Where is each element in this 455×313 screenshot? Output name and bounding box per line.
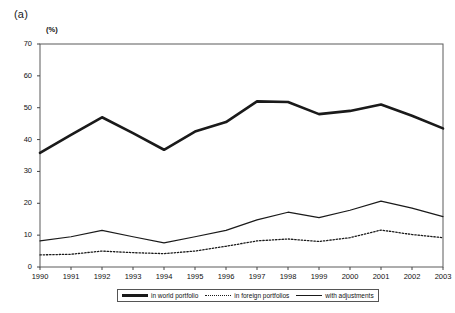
legend-swatch-thin-solid xyxy=(296,292,322,299)
x-axis-tick-label: 1992 xyxy=(85,273,119,281)
x-axis-tick-label: 2000 xyxy=(333,273,367,281)
plot-area: 0102030405060701990199119921993199419951… xyxy=(0,0,455,313)
legend-swatch-thick-solid xyxy=(122,292,148,299)
x-axis-tick-label: 2001 xyxy=(364,273,398,281)
y-axis-tick-label: 50 xyxy=(10,104,32,112)
legend-label-in-foreign-portfolios: in foreign portfolios xyxy=(234,292,289,299)
y-axis-tick-label: 30 xyxy=(10,167,32,175)
legend-label-with-adjustments: with adjustments xyxy=(325,292,373,299)
legend-item-in-world-portfolio: in world portfolio xyxy=(122,292,198,299)
x-axis-tick-label: 1997 xyxy=(240,273,274,281)
x-axis-tick-label: 1991 xyxy=(54,273,88,281)
y-axis-tick-label: 0 xyxy=(10,263,32,271)
x-axis-tick-label: 1998 xyxy=(271,273,305,281)
x-axis-tick-label: 1990 xyxy=(23,273,57,281)
y-axis-tick-label: 70 xyxy=(10,40,32,48)
legend-swatch-dotted xyxy=(205,292,231,299)
x-axis-tick-label: 1994 xyxy=(147,273,181,281)
legend-label-in-world-portfolio: in world portfolio xyxy=(151,292,198,299)
x-axis-tick-label: 1999 xyxy=(302,273,336,281)
series-line-with-adjustments xyxy=(40,101,443,153)
x-axis-tick-label: 1995 xyxy=(178,273,212,281)
y-axis-tick-label: 10 xyxy=(10,231,32,239)
y-axis-tick-label: 40 xyxy=(10,136,32,144)
plot-frame xyxy=(40,44,443,267)
legend-item-in-foreign-portfolios: in foreign portfolios xyxy=(205,292,289,299)
x-axis-tick-label: 1996 xyxy=(209,273,243,281)
legend-item-with-adjustments: with adjustments xyxy=(296,292,373,299)
x-axis-tick-label: 2002 xyxy=(395,273,429,281)
chart-legend: in world portfolio in foreign portfolios… xyxy=(117,289,379,302)
x-axis-tick-label: 2003 xyxy=(426,273,455,281)
series-line-in-foreign-portfolios xyxy=(40,230,443,255)
y-axis-tick-label: 20 xyxy=(10,199,32,207)
line-chart-svg xyxy=(0,0,455,313)
y-axis-tick-label: 60 xyxy=(10,72,32,80)
series-line-in-world-portfolio xyxy=(40,201,443,243)
x-axis-tick-label: 1993 xyxy=(116,273,150,281)
figure-container: (a) (%) 01020304050607019901991199219931… xyxy=(0,0,455,313)
